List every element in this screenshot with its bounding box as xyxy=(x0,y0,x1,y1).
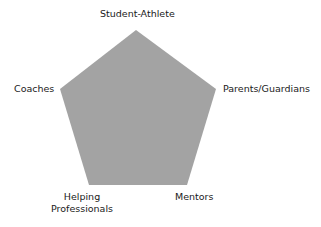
label-parents-guardians: Parents/Guardians xyxy=(223,83,310,95)
label-student-athlete: Student-Athlete xyxy=(100,8,175,20)
pentagon-diagram xyxy=(0,0,321,227)
label-helping-line2: Professionals xyxy=(50,203,114,215)
label-helping-professionals: Helping Professionals xyxy=(50,191,114,215)
label-helping-line1: Helping xyxy=(50,191,114,203)
pentagon-shape xyxy=(60,30,216,185)
label-coaches: Coaches xyxy=(14,83,54,95)
label-mentors: Mentors xyxy=(175,191,213,203)
